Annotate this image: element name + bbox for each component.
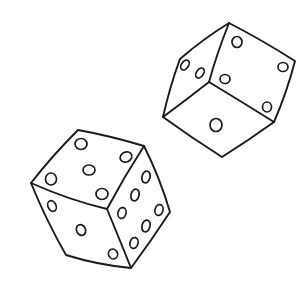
pip bbox=[46, 173, 57, 185]
upper-right-die bbox=[163, 23, 295, 157]
pip bbox=[220, 75, 230, 84]
pip bbox=[263, 102, 272, 112]
pip bbox=[210, 119, 222, 132]
pip bbox=[83, 165, 95, 175]
dice-illustration bbox=[0, 0, 305, 298]
lower-left-die bbox=[31, 130, 170, 268]
pip bbox=[278, 63, 288, 72]
pip bbox=[75, 139, 87, 150]
dice-drawing bbox=[0, 0, 305, 298]
pip bbox=[232, 37, 242, 48]
pip bbox=[96, 189, 108, 200]
